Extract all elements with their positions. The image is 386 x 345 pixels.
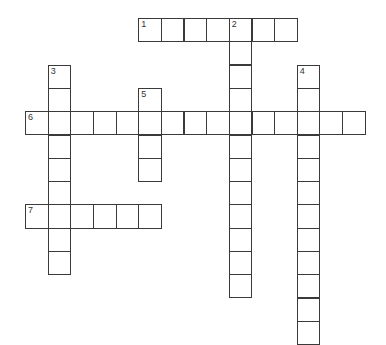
crossword-cell[interactable] bbox=[229, 41, 253, 65]
crossword-cell[interactable] bbox=[297, 158, 321, 182]
crossword-cell[interactable] bbox=[70, 204, 94, 228]
crossword-cell[interactable] bbox=[138, 111, 162, 135]
crossword-cell[interactable] bbox=[48, 111, 72, 135]
clue-number: 7 bbox=[28, 206, 33, 215]
crossword-cell[interactable] bbox=[297, 251, 321, 275]
clue-number: 1 bbox=[141, 20, 146, 29]
crossword-cell[interactable]: 2 bbox=[229, 18, 253, 42]
crossword-cell[interactable] bbox=[48, 228, 72, 252]
crossword-cell[interactable] bbox=[48, 251, 72, 275]
crossword-cell[interactable] bbox=[252, 111, 276, 135]
crossword-cell[interactable]: 4 bbox=[297, 65, 321, 89]
crossword-cell[interactable] bbox=[206, 111, 230, 135]
crossword-cell[interactable] bbox=[297, 204, 321, 228]
clue-number: 3 bbox=[51, 67, 56, 76]
crossword-cell[interactable] bbox=[297, 228, 321, 252]
crossword-cell[interactable] bbox=[229, 251, 253, 275]
crossword-cell[interactable] bbox=[161, 111, 185, 135]
crossword-cell[interactable] bbox=[229, 204, 253, 228]
crossword-cell[interactable] bbox=[297, 111, 321, 135]
crossword-cell[interactable] bbox=[297, 321, 321, 345]
crossword-cell[interactable] bbox=[138, 135, 162, 159]
crossword-cell[interactable] bbox=[116, 204, 140, 228]
crossword-cell[interactable] bbox=[229, 111, 253, 135]
crossword-cell[interactable] bbox=[116, 111, 140, 135]
clue-number: 5 bbox=[141, 90, 146, 99]
crossword-cell[interactable] bbox=[93, 111, 117, 135]
crossword-cell[interactable] bbox=[138, 158, 162, 182]
crossword-cell[interactable]: 7 bbox=[25, 204, 49, 228]
crossword-cell[interactable] bbox=[138, 204, 162, 228]
crossword-cell[interactable] bbox=[274, 18, 298, 42]
crossword-cell[interactable] bbox=[70, 111, 94, 135]
crossword-cell[interactable]: 1 bbox=[138, 18, 162, 42]
crossword-cell[interactable] bbox=[48, 181, 72, 205]
crossword-cell[interactable] bbox=[48, 158, 72, 182]
crossword-cell[interactable] bbox=[48, 135, 72, 159]
clue-number: 6 bbox=[28, 113, 33, 122]
crossword-cell[interactable] bbox=[48, 88, 72, 112]
crossword-cell[interactable] bbox=[48, 204, 72, 228]
crossword-cell[interactable] bbox=[206, 18, 230, 42]
crossword-cell[interactable] bbox=[297, 181, 321, 205]
crossword-cell[interactable] bbox=[229, 181, 253, 205]
crossword-cell[interactable] bbox=[274, 111, 298, 135]
crossword-cell[interactable] bbox=[93, 204, 117, 228]
crossword-cell[interactable] bbox=[252, 18, 276, 42]
crossword-cell[interactable] bbox=[229, 88, 253, 112]
crossword-cell[interactable] bbox=[342, 111, 366, 135]
crossword-cell[interactable] bbox=[297, 274, 321, 298]
crossword-cell[interactable]: 5 bbox=[138, 88, 162, 112]
crossword-cell[interactable] bbox=[184, 111, 208, 135]
crossword-cell[interactable] bbox=[319, 111, 343, 135]
crossword-cell[interactable] bbox=[297, 88, 321, 112]
crossword-cell[interactable] bbox=[229, 274, 253, 298]
clue-number: 2 bbox=[232, 20, 237, 29]
clue-number: 4 bbox=[300, 67, 305, 76]
crossword-cell[interactable] bbox=[297, 298, 321, 322]
crossword-cell[interactable] bbox=[184, 18, 208, 42]
crossword-cell[interactable]: 6 bbox=[25, 111, 49, 135]
crossword-cell[interactable] bbox=[229, 228, 253, 252]
crossword-cell[interactable] bbox=[229, 65, 253, 89]
crossword-cell[interactable]: 3 bbox=[48, 65, 72, 89]
crossword-cell[interactable] bbox=[161, 18, 185, 42]
crossword-cell[interactable] bbox=[297, 135, 321, 159]
crossword-cell[interactable] bbox=[229, 158, 253, 182]
crossword-cell[interactable] bbox=[229, 135, 253, 159]
